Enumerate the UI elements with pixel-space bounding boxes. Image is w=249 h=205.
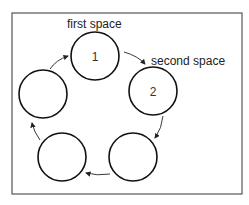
first-space-label: first space (67, 17, 122, 31)
arrow-4-to-5-icon (32, 123, 40, 140)
arrow-5-to-1-icon (50, 56, 68, 69)
second-space-label: second space (151, 54, 225, 68)
space-3-circle (109, 133, 157, 181)
arrow-2-to-3-icon (155, 116, 163, 138)
space-1-number: 1 (92, 50, 99, 64)
arrow-3-to-4-icon (86, 173, 110, 175)
cycle-diagram: first space second space 1 2 (0, 0, 249, 205)
arrow-1-to-2-icon (124, 52, 145, 64)
space-4-circle (38, 133, 86, 181)
space-2-number: 2 (150, 85, 157, 99)
space-5-circle (19, 70, 67, 118)
